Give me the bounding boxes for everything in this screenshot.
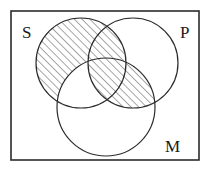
circle-label-m: M — [165, 137, 180, 156]
circle-label-p: P — [180, 23, 189, 42]
venn-diagram-canvas: S P M — [0, 0, 212, 170]
circle-label-s: S — [22, 23, 31, 42]
venn-diagram-figure: S P M — [0, 0, 212, 170]
